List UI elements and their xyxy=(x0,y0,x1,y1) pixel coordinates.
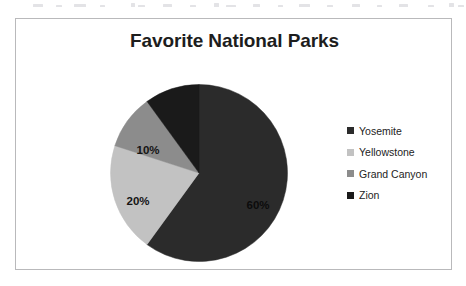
scan-speck xyxy=(278,5,283,7)
scan-speck xyxy=(163,4,172,7)
chart-title: Favorite National Parks xyxy=(16,30,453,52)
pie-chart: 60%20%10% xyxy=(110,84,288,262)
scan-speck xyxy=(352,4,360,7)
legend-item-label: Yosemite xyxy=(359,126,402,137)
legend-item-yosemite[interactable]: Yosemite xyxy=(346,120,450,142)
chart-frame: Favorite National Parks 60%20%10% Yosemi… xyxy=(15,18,452,270)
legend-swatch-square-icon xyxy=(347,192,354,199)
legend-item-label: Zion xyxy=(359,190,379,201)
scan-speck xyxy=(138,5,145,7)
scan-speck xyxy=(100,5,105,7)
scan-speck xyxy=(327,5,333,7)
legend-item-label: Yellowstone xyxy=(359,147,415,158)
legend-swatch-square-icon xyxy=(347,170,354,177)
legend-item-grand-canyon[interactable]: Grand Canyon xyxy=(346,163,450,185)
scan-artifact-strip xyxy=(0,0,466,11)
chart-legend: YosemiteYellowstoneGrand CanyonZion xyxy=(346,120,450,206)
pie-svg xyxy=(110,84,288,262)
scan-speck xyxy=(74,4,86,7)
legend-swatch-square-icon xyxy=(347,149,354,156)
legend-item-zion[interactable]: Zion xyxy=(346,185,450,207)
scan-speck xyxy=(253,4,260,7)
pie-slice-label: 20% xyxy=(126,195,149,207)
scan-speck xyxy=(33,4,43,7)
scan-speck xyxy=(449,3,454,7)
scan-speck xyxy=(428,5,434,7)
legend-item-label: Grand Canyon xyxy=(359,169,427,180)
pie-slice-label: 60% xyxy=(246,199,269,211)
legend-swatch-square-icon xyxy=(347,127,354,134)
scan-speck xyxy=(56,5,62,7)
scan-speck xyxy=(299,4,310,7)
scan-speck xyxy=(131,3,135,7)
pie-slice-label: 10% xyxy=(136,144,159,156)
scan-speck xyxy=(190,5,196,7)
scan-speck xyxy=(458,5,464,7)
scan-speck xyxy=(399,4,408,7)
scan-speck xyxy=(214,3,219,7)
legend-item-yellowstone[interactable]: Yellowstone xyxy=(346,142,450,164)
scan-speck xyxy=(377,5,382,7)
scan-speck xyxy=(226,5,236,7)
